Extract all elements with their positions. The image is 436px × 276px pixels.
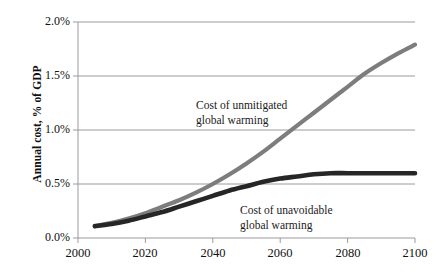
x-tick-label-2060: 2060 (250, 246, 310, 261)
x-tick-label-2040: 2040 (183, 246, 243, 261)
annotation-unavoidable: Cost of unavoidable global warming (240, 203, 333, 232)
series-lines (95, 45, 415, 226)
annotation-unavoidable-line1: Cost of unavoidable (240, 203, 333, 218)
y-tick-label-0p5: 0.5% (30, 176, 70, 191)
annotation-unmitigated-line2: global warming (196, 113, 287, 128)
chart-container: Annual cost, % of GDP 2.0% 1.5% 1.0% 0.5… (0, 0, 436, 276)
x-tick-label-2100: 2100 (385, 246, 436, 261)
x-tick-label-2020: 2020 (115, 246, 175, 261)
y-tick-label-1p5: 1.5% (30, 68, 70, 83)
x-tick-label-2000: 2000 (48, 246, 108, 261)
y-tick-label-2: 2.0% (30, 14, 70, 29)
annotation-unmitigated-line1: Cost of unmitigated (196, 98, 287, 113)
x-tick-label-2080: 2080 (318, 246, 378, 261)
annotation-unmitigated: Cost of unmitigated global warming (196, 98, 287, 127)
y-tick-label-1: 1.0% (30, 122, 70, 137)
y-tick-label-0: 0.0% (30, 230, 70, 245)
series-line-unmitigated (95, 45, 415, 226)
annotation-unavoidable-line2: global warming (240, 218, 333, 233)
